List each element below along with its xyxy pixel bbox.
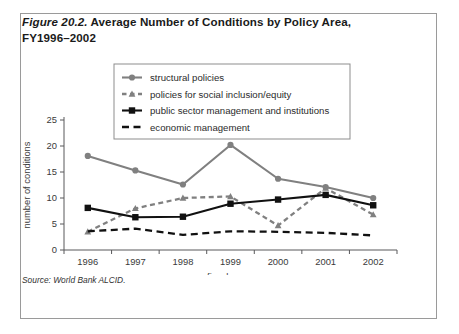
x-tick-label: 1996 <box>77 256 98 267</box>
chart-container: structural policiespolicies for social i… <box>0 45 417 275</box>
page-title: Figure 20.2. Average Number of Condition… <box>22 14 400 46</box>
x-axis-title: fiscal years <box>207 271 254 275</box>
series-2 <box>84 185 376 235</box>
source-note: Source: World Bank ALCID. <box>22 275 126 285</box>
x-tick-label: 2000 <box>268 256 289 267</box>
legend-item-label: structural policies <box>150 72 224 83</box>
chart-series <box>84 142 376 236</box>
legend-item-label: public sector management and institution… <box>150 105 329 116</box>
series-4 <box>88 229 373 236</box>
line-chart: structural policiespolicies for social i… <box>0 45 417 275</box>
y-tick-label: 25 <box>47 114 57 125</box>
legend-item-label: policies for social inclusion/equity <box>150 89 292 100</box>
y-tick-label: 0 <box>52 244 57 255</box>
chart-legend: structural policiespolicies for social i… <box>114 64 350 139</box>
legend-item-label: economic management <box>150 122 250 133</box>
figure-number: Figure 20.2. <box>22 15 88 28</box>
y-tick-label: 5 <box>52 218 57 229</box>
x-tick-label: 2001 <box>315 256 336 267</box>
y-tick-label: 10 <box>47 192 57 203</box>
x-tick-label: 1999 <box>220 256 241 267</box>
y-tick-label: 15 <box>47 166 57 177</box>
y-axis-title: number of conditions <box>21 141 32 228</box>
y-tick-label: 20 <box>47 140 57 151</box>
x-tick-label: 1997 <box>125 256 146 267</box>
x-tick-label: 1998 <box>172 256 193 267</box>
x-tick-label: 2002 <box>363 256 384 267</box>
